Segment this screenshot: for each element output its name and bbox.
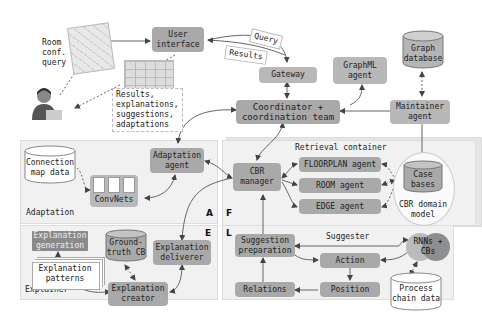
rnns-cbs-label: RNNs + CBs (405, 237, 451, 257)
case-bases-label: Case bases (403, 170, 443, 190)
connection-map-data-label: Connection map data (24, 158, 76, 178)
maintainer-agent-box[interactable]: Maintainer agent (390, 100, 450, 124)
relations-box[interactable]: Relations (235, 282, 295, 297)
action-box[interactable]: Action (320, 253, 380, 268)
ground-truth-cb-label: Ground- truth CB (105, 238, 147, 258)
adaptation-agent-box[interactable]: Adaptation agent (150, 148, 204, 173)
convnet-layers-icon (93, 177, 135, 193)
user-interface-box[interactable]: User interface (152, 27, 204, 52)
graphml-agent-box[interactable]: GraphML agent (333, 57, 387, 84)
user-avatar-icon (30, 86, 62, 120)
gateway-box[interactable]: Gateway (259, 67, 317, 83)
cbr-domain-model-label: CBR domain model (393, 200, 453, 220)
process-chain-data-label: Process chain data (390, 284, 442, 304)
edge-agent-box[interactable]: EDGE agent (299, 199, 381, 214)
graph-database-label: Graph database (402, 44, 444, 64)
cbr-manager-box[interactable]: CBR manager (233, 163, 281, 191)
room-config-document-icon (67, 22, 115, 74)
floorplan-results-icon (124, 60, 174, 90)
coordinator-box[interactable]: Coordinator + coordination team (236, 100, 340, 124)
results-note: Results, explanations, suggestions, adap… (112, 88, 183, 132)
explanation-creator-box[interactable]: Explanation creator (108, 282, 168, 306)
floorplan-agent-box[interactable]: FLOORPLAN agent (299, 157, 381, 172)
explanation-deliverer-box[interactable]: Explanation deliverer (153, 240, 211, 265)
convnets-label: ConvNets (95, 195, 134, 205)
suggestion-preparation-box[interactable]: Suggestion preparation (235, 234, 295, 257)
position-box[interactable]: Position (320, 282, 380, 297)
room-agent-box[interactable]: ROOM agent (299, 178, 381, 193)
room-query-label: Room conf. query (42, 38, 66, 68)
explanation-patterns-label: Explanation patterns (32, 264, 98, 284)
explanation-generation-box[interactable]: Explanation generation (32, 231, 88, 251)
